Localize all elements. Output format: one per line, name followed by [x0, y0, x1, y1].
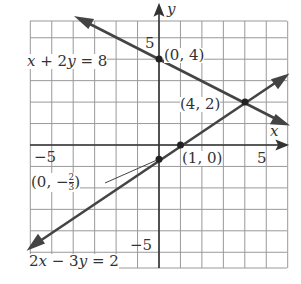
- point-4-2: [242, 99, 249, 106]
- label-point-0-neg2-3: (0, −23): [31, 173, 80, 192]
- y-axis-label: y: [167, 2, 175, 17]
- line2-arrow-left-icon: [30, 236, 43, 248]
- y-axis-arrow-icon: [155, 5, 163, 15]
- x-axis-label: x: [270, 124, 278, 139]
- line1-arrow-left-icon: [78, 18, 92, 27]
- point-0-4: [156, 56, 163, 63]
- x-tick-5: 5: [257, 151, 267, 166]
- point-0-neg2-3: [156, 156, 163, 163]
- x-axis-arrow-icon: [277, 141, 287, 149]
- graph-figure: y x 5 (0, 4) x + 2y = 8 (4, 2) −5 (1, 0)…: [0, 0, 301, 284]
- y-tick-neg5: −5: [130, 238, 152, 253]
- point-1-0: [177, 142, 184, 149]
- line2-arrow-right-icon: [273, 76, 286, 87]
- label-point-4-2: (4, 2): [180, 97, 220, 112]
- label-point-1-0: (1, 0): [182, 151, 222, 166]
- equation-label-2: 2x − 3y = 2: [29, 254, 119, 269]
- x-tick-neg5: −5: [34, 150, 56, 165]
- label-point-0-4: (0, 4): [164, 48, 204, 63]
- equation-label-1: x + 2y = 8: [27, 54, 107, 69]
- y-tick-5: 5: [145, 36, 155, 51]
